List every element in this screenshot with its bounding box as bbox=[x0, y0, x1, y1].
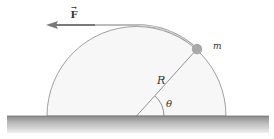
hemisphere bbox=[47, 26, 226, 116]
mass-label: m bbox=[213, 41, 222, 51]
force-label: F bbox=[70, 9, 77, 20]
hemisphere-diagram: → F m R θ bbox=[0, 0, 274, 139]
mass-ball bbox=[192, 44, 202, 54]
radius-label: R bbox=[156, 74, 165, 87]
angle-label: θ bbox=[166, 98, 172, 109]
ground bbox=[7, 116, 269, 133]
